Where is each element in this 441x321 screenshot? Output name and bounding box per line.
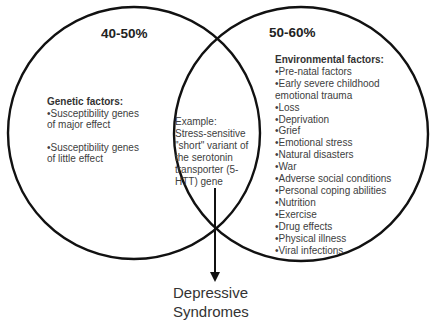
outcome-line: Depressive	[173, 283, 249, 302]
list-item: •Adverse social conditions	[275, 173, 391, 185]
intersection-example: Example: Stress-sensitive "short" varian…	[175, 116, 248, 188]
list-item: •Susceptibility genes	[47, 142, 139, 154]
list-item: •Drug effects	[275, 221, 391, 233]
environmental-factors-list: Environmental factors: •Pre-natal factor…	[275, 54, 391, 256]
list-item: emotional trauma	[275, 90, 391, 102]
example-line: Stress-sensitive	[175, 128, 248, 140]
list-item: •Early severe childhood	[275, 78, 391, 90]
list-item: •Emotional stress	[275, 137, 391, 149]
example-line: Example:	[175, 116, 248, 128]
example-line: HTT) gene	[175, 176, 248, 188]
list-item: •Deprivation	[275, 114, 391, 126]
list-item: •Physical illness	[275, 233, 391, 245]
list-item: of major effect	[47, 119, 139, 131]
genetic-percentage: 40-50%	[101, 26, 148, 41]
list-item: •Susceptibility genes	[47, 108, 139, 120]
list-item: •War	[275, 161, 391, 173]
example-line: transporter (5-	[175, 164, 248, 176]
list-item: •Grief	[275, 125, 391, 137]
list-item: •Loss	[275, 102, 391, 114]
outcome-label: Depressive Syndromes	[173, 283, 249, 321]
environmental-percentage: 50-60%	[269, 25, 316, 40]
genetic-factors-heading: Genetic factors:	[47, 96, 139, 108]
list-item: •Exercise	[275, 209, 391, 221]
list-item: •Viral infections	[275, 245, 391, 257]
list-item: •Natural disasters	[275, 149, 391, 161]
genetic-factors-list: Genetic factors: •Susceptibility genes o…	[47, 96, 139, 165]
outcome-line: Syndromes	[173, 302, 249, 321]
list-item: •Personal coping abilities	[275, 185, 391, 197]
example-line: "short" variant of	[175, 140, 248, 152]
list-item: •Pre-natal factors	[275, 66, 391, 78]
outcome-arrow-head	[210, 272, 220, 282]
list-item: •Nutrition	[275, 197, 391, 209]
list-item: of little effect	[47, 153, 139, 165]
example-line: the serotonin	[175, 152, 248, 164]
environmental-factors-heading: Environmental factors:	[275, 54, 391, 66]
